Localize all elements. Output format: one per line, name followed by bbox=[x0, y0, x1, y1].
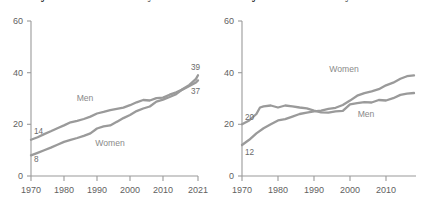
y-label-0-right: 0 bbox=[229, 171, 234, 181]
chart-panel-right: % of adults ages 25 to 34 with a bachelo… bbox=[211, 0, 421, 205]
line-chart-left: 60 40 20 0 1970 1980 1990 2000 2010 2021… bbox=[0, 0, 210, 205]
x-label-1980-left: 1980 bbox=[54, 185, 74, 195]
x-label-2000-right: 2000 bbox=[340, 185, 360, 195]
annotation-upper-end-left: 39 bbox=[191, 63, 201, 72]
annotation-women-start-left: 8 bbox=[34, 155, 39, 164]
y-label-40-left: 40 bbox=[13, 68, 23, 78]
y-label-20-right: 20 bbox=[224, 119, 234, 129]
line-chart-right: 60 40 20 0 1970 1980 1990 2000 2010 Wome… bbox=[211, 0, 421, 205]
series-label-men-right: Men bbox=[358, 109, 375, 119]
y-label-20-left: 20 bbox=[13, 119, 23, 129]
y-label-0-left: 0 bbox=[18, 171, 23, 181]
x-label-1990-left: 1990 bbox=[87, 185, 107, 195]
x-label-2010-left: 2010 bbox=[153, 185, 173, 195]
annotation-women-start-right: 12 bbox=[245, 148, 255, 157]
series-label-men-left: Men bbox=[77, 93, 94, 103]
x-label-1980-right: 1980 bbox=[268, 185, 288, 195]
x-label-2021-left: 2021 bbox=[188, 185, 208, 195]
x-label-2010-right: 2010 bbox=[376, 185, 396, 195]
x-label-2000-left: 2000 bbox=[120, 185, 140, 195]
series-label-women-right: Women bbox=[329, 64, 359, 74]
y-label-40-right: 40 bbox=[224, 68, 234, 78]
annotation-lower-end-left: 37 bbox=[191, 87, 201, 96]
series-label-women-left: Women bbox=[95, 138, 125, 148]
annotation-men-start-right: 20 bbox=[245, 113, 255, 122]
x-label-1970-right: 1970 bbox=[232, 185, 252, 195]
chart-panel-left: % of adults ages 25 and older with a bac… bbox=[0, 0, 210, 205]
series-line-women-right bbox=[242, 75, 414, 145]
annotation-men-start-left: 14 bbox=[34, 127, 44, 136]
y-label-60-right: 60 bbox=[224, 16, 234, 26]
series-line-men-left bbox=[31, 80, 198, 139]
x-label-1970-left: 1970 bbox=[21, 185, 41, 195]
figure-container: % of adults ages 25 and older with a bac… bbox=[0, 0, 421, 205]
y-label-60-left: 60 bbox=[13, 16, 23, 26]
x-label-1990-right: 1990 bbox=[304, 185, 324, 195]
